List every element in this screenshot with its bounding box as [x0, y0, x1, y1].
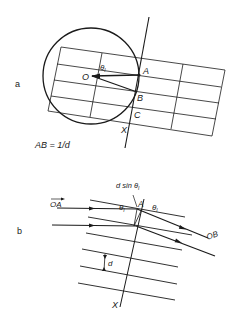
label-vector-oa: OA [50, 198, 65, 210]
label-angle-out: θI [152, 203, 158, 213]
label-path-difference: d sin θI [116, 181, 140, 191]
label-vector-ob: OB [205, 229, 219, 241]
path-diff-pointer [133, 195, 137, 207]
arrowhead-out-2 [175, 239, 182, 243]
label-angle-a: θI [100, 63, 106, 73]
label-x-b: X [111, 300, 119, 310]
point-a-dot [138, 74, 141, 77]
spacing-arrowhead-bottom [102, 267, 106, 271]
axis-line-b [120, 199, 144, 307]
panel-a: a O θI A B C X AB = 1/d [15, 17, 225, 150]
label-angle-in: θI [119, 203, 125, 213]
arrowhead-in-1 [89, 207, 95, 211]
label-a: A [142, 66, 149, 76]
label-b: B [137, 93, 143, 103]
label-x-a: X [120, 125, 128, 135]
svg-text:OB: OB [205, 229, 219, 241]
incident-ray-1 [57, 208, 137, 209]
arrowhead-in-2 [89, 224, 95, 228]
equation-ab: AB = 1/d [34, 140, 71, 150]
spacing-arrowhead-top [103, 255, 107, 259]
panel-b-label: b [17, 226, 22, 236]
label-spacing-d: d [108, 259, 113, 268]
vector-ob [92, 76, 137, 92]
label-o: O [82, 72, 89, 82]
axis-line-a [125, 17, 149, 148]
label-c: C [134, 110, 141, 120]
panel-b: b OA OB d sin θI θI A θI d X [17, 181, 220, 310]
diffracted-ray-1 [137, 209, 208, 238]
arrowhead-out-1 [179, 225, 186, 230]
ewald-construction-figure: a O θI A B C X AB = 1/d [0, 0, 236, 317]
lattice-planes [78, 200, 192, 300]
label-a-b: A [137, 199, 144, 209]
svg-text:OA: OA [50, 200, 62, 209]
panel-a-label: a [15, 79, 20, 89]
